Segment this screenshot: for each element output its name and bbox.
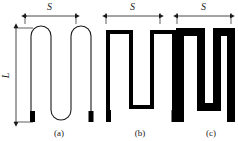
dimension-label-S-b: S bbox=[130, 1, 135, 12]
dimension-label-S-a: S bbox=[47, 1, 52, 12]
dimension-S-a bbox=[25, 13, 76, 24]
caption-a: (a) bbox=[47, 128, 71, 138]
trace-c bbox=[180, 32, 231, 122]
terminal-pad-a-right bbox=[89, 111, 94, 122]
dimension-S-c bbox=[177, 13, 231, 24]
terminal-pad-b-right bbox=[172, 110, 177, 122]
panel-a bbox=[14, 13, 94, 122]
meander-geometry-svg bbox=[0, 0, 238, 141]
terminal-pad-b-left bbox=[106, 110, 111, 122]
trace-b bbox=[108, 32, 174, 122]
dimension-label-L: L bbox=[0, 73, 11, 79]
terminal-pad-a-left bbox=[30, 111, 35, 122]
dimension-label-S-c: S bbox=[201, 1, 206, 12]
trace-a bbox=[31, 26, 91, 122]
figure-container: S S S L (a) (b) (c) bbox=[0, 0, 238, 141]
dimension-S-b bbox=[106, 13, 160, 24]
caption-b: (b) bbox=[128, 128, 152, 138]
panel-b bbox=[106, 13, 177, 122]
panel-c bbox=[177, 13, 231, 122]
dimension-L bbox=[14, 28, 33, 122]
caption-c: (c) bbox=[199, 128, 223, 138]
